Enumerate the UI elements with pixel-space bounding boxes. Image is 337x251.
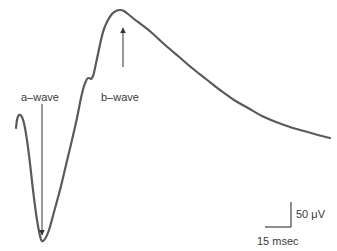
a-wave-label: a–wave (21, 91, 59, 103)
erg-trace-curve (16, 10, 330, 241)
scale-time-label: 15 msec (257, 235, 299, 247)
scale-bar (265, 202, 291, 227)
scale-amplitude-label: 50 μV (296, 208, 325, 220)
b-wave-label: b–wave (101, 91, 139, 103)
erg-waveform-figure (0, 0, 337, 251)
